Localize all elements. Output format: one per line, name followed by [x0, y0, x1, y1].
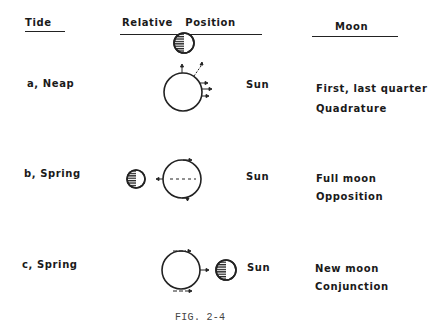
row-c-moon-icon	[216, 260, 236, 280]
tide-diagrams	[0, 0, 432, 331]
row-c-earth-icon	[162, 251, 200, 289]
row-b-moon-icon	[127, 170, 145, 188]
row-a-moon-icon	[174, 33, 194, 53]
row-a-earth-icon	[164, 73, 202, 111]
